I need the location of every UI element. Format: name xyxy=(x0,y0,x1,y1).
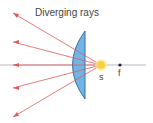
arrowhead-icon xyxy=(13,112,19,117)
rays xyxy=(13,13,101,117)
focal-point-dot xyxy=(118,63,121,66)
arrowhead-icon xyxy=(13,40,19,44)
focal-point-label: f xyxy=(118,68,121,78)
diverging-rays-diagram: Diverging rays s f xyxy=(0,0,153,123)
source-label: s xyxy=(99,72,104,82)
ray-4 xyxy=(13,65,101,88)
ray-5 xyxy=(13,65,101,117)
arrowhead-icon xyxy=(13,63,19,67)
ray-1 xyxy=(13,13,101,65)
diagram-title: Diverging rays xyxy=(35,7,99,18)
ray-arrowheads xyxy=(13,13,19,117)
light-source-icon xyxy=(97,61,105,69)
ray-2 xyxy=(13,42,101,65)
arrowhead-icon xyxy=(13,86,19,90)
arrowhead-icon xyxy=(13,13,19,18)
optics-diagram-svg xyxy=(0,0,153,123)
